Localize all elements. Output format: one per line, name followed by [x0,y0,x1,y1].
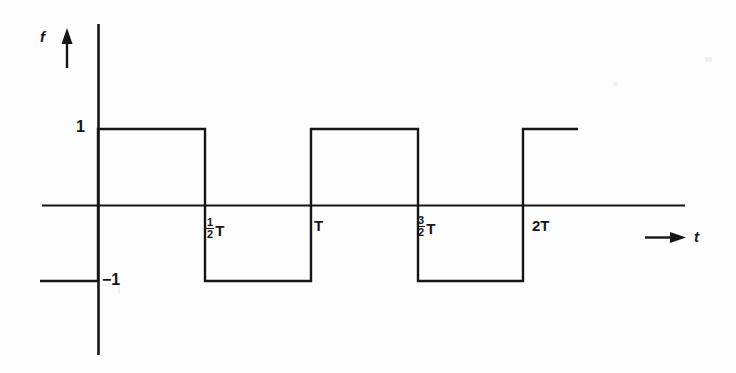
fraction-unit: T [215,223,224,238]
plot-canvas [0,0,736,373]
y-tick-label-positive-one: 1 [76,119,85,135]
scan-speck [118,285,120,294]
scan-speck [705,57,712,62]
right-arrow-icon [645,232,686,243]
x-tick-label-t: T [314,218,323,233]
x-tick-label-three-halves-t: 3 2 T [417,216,435,239]
y-axis-label: f [40,29,45,44]
fraction-one-half: 1 2 [206,217,214,240]
x-axis-label: t [694,229,699,244]
up-arrow-icon [62,28,73,68]
fraction-denominator: 2 [206,229,214,240]
x-tick-label-two-t: 2T [532,218,550,233]
fraction-unit: T [426,221,435,236]
square-wave-figure: f t 1 −1 1 2 T T 3 2 T 2T [0,0,736,373]
x-tick-label-half-t: 1 2 T [206,218,224,241]
fraction-three-halves: 3 2 [417,215,425,238]
scan-speck [613,82,618,86]
fraction-denominator: 2 [417,227,425,238]
